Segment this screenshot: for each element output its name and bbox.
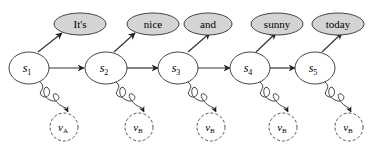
state-node-2: s2 bbox=[85, 52, 127, 84]
word-node-2: nice bbox=[127, 13, 179, 35]
word-label: and bbox=[200, 18, 216, 30]
state-node-4: s4 bbox=[230, 52, 270, 84]
word-label: It's bbox=[74, 18, 87, 30]
hmm-diagram: It's nice and sunny today s1 s2 s3 s4 s5 bbox=[0, 0, 372, 149]
word-label: today bbox=[326, 18, 351, 30]
state-node-1: s1 bbox=[9, 52, 49, 84]
word-label: sunny bbox=[264, 18, 291, 30]
observation-node-3: vB bbox=[197, 113, 225, 141]
word-label: nice bbox=[144, 18, 162, 30]
observation-node-2: vB bbox=[125, 113, 153, 141]
word-node-4: sunny bbox=[251, 13, 303, 35]
word-node-3: and bbox=[184, 13, 232, 35]
emission-arrows bbox=[38, 33, 342, 52]
state-node-5: s5 bbox=[295, 52, 335, 84]
stochastic-arrows bbox=[40, 82, 351, 112]
observation-node-4: vB bbox=[269, 113, 297, 141]
state-node-3: s3 bbox=[158, 52, 198, 84]
observation-node-1: vA bbox=[50, 113, 78, 141]
observation-node-5: vB bbox=[335, 113, 363, 141]
word-node-1: It's bbox=[54, 13, 106, 35]
word-node-5: today bbox=[312, 13, 364, 35]
